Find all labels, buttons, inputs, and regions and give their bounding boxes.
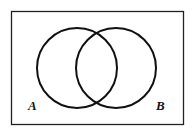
set-a-label: A xyxy=(27,98,37,113)
venn-diagram: A B xyxy=(0,0,193,134)
set-b-label: B xyxy=(155,98,165,113)
